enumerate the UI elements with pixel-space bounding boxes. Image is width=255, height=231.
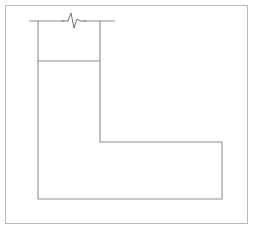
outer-border-rect: [6, 6, 248, 224]
technical-drawing-figure: [0, 0, 255, 231]
drawing-canvas: [0, 0, 255, 231]
l-shape-outline: [38, 21, 222, 199]
